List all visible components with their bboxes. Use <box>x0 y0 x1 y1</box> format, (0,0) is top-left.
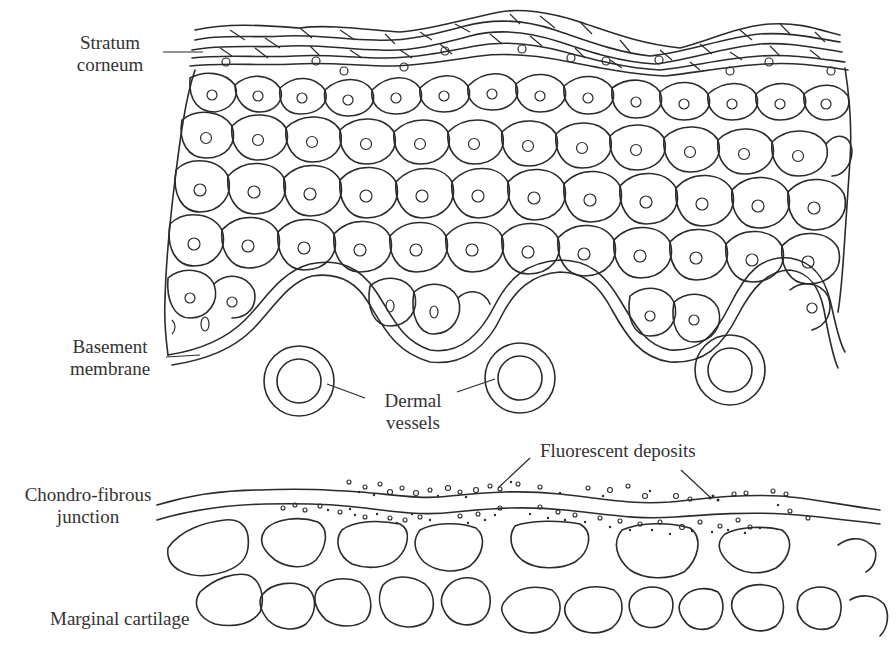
fluorescent-deposits-label: Fluorescent deposits <box>540 440 730 462</box>
stratum-corneum-label-line1: Stratum <box>55 32 165 54</box>
basement-membrane-label: Basement membrane <box>55 336 165 380</box>
dermal-vessel-3 <box>695 335 765 405</box>
stratum-corneum-label-line2: corneum <box>55 54 165 76</box>
diagram-drawing <box>0 0 896 669</box>
dermal-vessels-label-line2: vessels <box>368 412 458 434</box>
cartilage-lacunae-row-2 <box>196 574 887 636</box>
chondro-fibrous-label-line1: Chondro-fibrous <box>8 484 168 506</box>
dermal-vessel-1 <box>264 346 334 416</box>
basement-membrane-label-line1: Basement <box>55 336 165 358</box>
histology-diagram: Stratum corneum Basement membrane Dermal… <box>0 0 896 669</box>
dermal-vessel-2 <box>485 343 555 413</box>
chondro-fibrous-label-line2: junction <box>8 506 168 528</box>
chondro-fibrous-junction-label: Chondro-fibrous junction <box>8 484 168 528</box>
cartilage-lacunae-row-1 <box>168 519 876 578</box>
marginal-cartilage-label: Marginal cartilage <box>50 608 220 630</box>
dermal-vessels-label: Dermal vessels <box>368 390 458 434</box>
stratum-corneum <box>190 10 848 76</box>
basement-membrane-label-line2: membrane <box>55 358 165 380</box>
dermal-vessels-label-line1: Dermal <box>368 390 458 412</box>
stratum-corneum-label: Stratum corneum <box>55 32 165 76</box>
